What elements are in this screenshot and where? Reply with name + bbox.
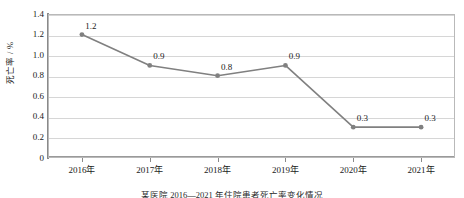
x-axis-tick — [150, 158, 151, 162]
data-point-label: 0.3 — [410, 114, 450, 123]
x-axis-tick — [353, 158, 354, 162]
y-axis-tick-label: 0.6 — [18, 92, 44, 101]
data-point-label: 0.3 — [342, 114, 382, 123]
gridline — [49, 36, 454, 37]
gridline — [49, 118, 454, 119]
x-axis-tick-label: 2020年 — [323, 165, 383, 175]
data-point-label: 0.9 — [274, 52, 314, 61]
y-axis-tick-label: 0.2 — [18, 133, 44, 142]
x-axis-tick — [285, 158, 286, 162]
x-axis-tick-label: 2019年 — [255, 165, 315, 175]
x-axis-baseline — [49, 156, 454, 157]
data-point-label: 0.9 — [139, 52, 179, 61]
figure-caption: 某医院 2016—2021 年住院患者死亡率变化情况 — [0, 190, 464, 198]
y-axis-tick-label: 1.4 — [18, 10, 44, 19]
gridline — [49, 56, 454, 57]
x-axis-tick-label: 2021年 — [391, 165, 451, 175]
y-axis-tick-label: 0 — [18, 154, 44, 163]
x-axis-tick — [218, 158, 219, 162]
data-point-label: 1.2 — [71, 22, 111, 31]
y-axis-tick-label: 1.0 — [18, 51, 44, 60]
x-axis-tick — [421, 158, 422, 162]
data-point-label: 0.8 — [207, 63, 247, 72]
x-axis-tick-label: 2017年 — [120, 165, 180, 175]
x-axis-tick — [82, 158, 83, 162]
gridline — [49, 15, 454, 16]
y-axis-tick-label: 0.8 — [18, 71, 44, 80]
x-axis-tick-label: 2018年 — [188, 165, 248, 175]
gridline — [49, 138, 454, 139]
y-axis-tick-label: 1.2 — [18, 30, 44, 39]
y-axis-tick-label: 0.4 — [18, 112, 44, 121]
gridline — [49, 77, 454, 78]
y-axis-tick-labels: 00.20.40.60.81.01.21.4 — [14, 0, 44, 198]
x-axis-tick-label: 2016年 — [52, 165, 112, 175]
plot-area — [48, 14, 455, 158]
chart-figure: 死亡率 / % 00.20.40.60.81.01.21.4 2016年2017… — [0, 0, 464, 198]
gridline — [49, 97, 454, 98]
